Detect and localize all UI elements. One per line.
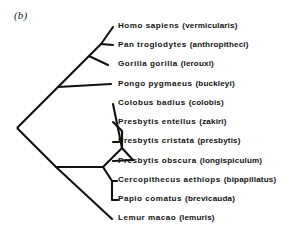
parasite-name: (presbytis) [198, 136, 241, 145]
figure-panel: (b) [0, 0, 299, 243]
host-name: Gorilla gorilla [118, 59, 178, 68]
taxon-label: Cercopithecus aethiops(bipapillatus) [118, 175, 276, 185]
parasite-name: (zakiri) [199, 117, 226, 126]
taxon-label: Pongo pygmaeus(buckleyi) [118, 79, 235, 89]
host-name: Homo sapiens [118, 21, 179, 30]
parasite-name: (vermicularis) [182, 21, 237, 30]
taxa-label-list: Homo sapiens(vermicularis) Pan troglodyt… [0, 0, 299, 243]
parasite-name: (anthropitheci) [190, 40, 249, 49]
taxon-label: Presbytis entellus(zakiri) [118, 117, 227, 127]
taxon-label: Lemur macao(lemuris) [118, 213, 215, 223]
taxon-label: Colobus badius(colobis) [118, 98, 224, 108]
parasite-name: (buckleyi) [195, 79, 234, 88]
host-name: Colobus badius [118, 98, 186, 107]
parasite-name: (bipapillatus) [224, 175, 276, 184]
host-name: Papio comatus [118, 194, 182, 203]
host-name: Presbytis cristata [118, 136, 195, 145]
host-name: Pan troglodytes [118, 40, 187, 49]
taxon-label: Gorilla gorilla(lerouxi) [118, 59, 214, 69]
taxon-label: Homo sapiens(vermicularis) [118, 21, 238, 31]
host-name: Lemur macao [118, 213, 176, 222]
host-name: Pongo pygmaeus [118, 79, 192, 88]
host-name: Cercopithecus aethiops [118, 175, 221, 184]
taxon-label: Presbytis obscura(longispiculum) [118, 156, 262, 166]
taxon-label: Presbytis cristata(presbytis) [118, 136, 241, 146]
taxon-label: Pan troglodytes(anthropitheci) [118, 40, 249, 50]
host-name: Presbytis obscura [118, 156, 197, 165]
parasite-name: (lemuris) [179, 213, 215, 222]
host-name: Presbytis entellus [118, 117, 196, 126]
parasite-name: (longispiculum) [200, 156, 263, 165]
parasite-name: (colobis) [189, 98, 224, 107]
taxon-label: Papio comatus(brevicauda) [118, 194, 235, 204]
parasite-name: (lerouxi) [181, 59, 214, 68]
parasite-name: (brevicauda) [185, 194, 235, 203]
